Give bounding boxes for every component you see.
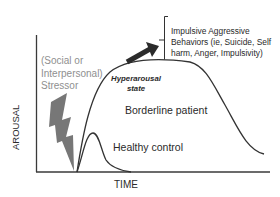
x-axis-label: TIME bbox=[114, 179, 138, 190]
lightning-bolt-icon bbox=[49, 93, 74, 171]
healthy-control-label: Healthy control bbox=[113, 141, 183, 153]
stressor-label: (Social or Interpersonal) Stressor bbox=[41, 55, 103, 93]
outcome-bracket bbox=[159, 17, 168, 60]
arrow-up-right-icon bbox=[127, 42, 159, 62]
borderline-patient-label: Borderline patient bbox=[125, 104, 207, 116]
hyperarousal-state-label: Hyperarousal state bbox=[100, 74, 172, 94]
impulsive-behaviors-label: Impulsive Aggressive Behaviors (ie, Suic… bbox=[171, 26, 271, 59]
y-axis-label: AROUSAL bbox=[10, 105, 21, 150]
